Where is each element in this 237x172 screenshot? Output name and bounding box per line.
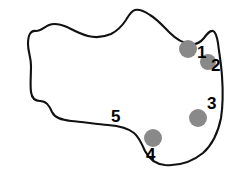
- marker-label-3: 3: [207, 95, 216, 112]
- marker-label-5: 5: [111, 108, 120, 125]
- marker-1[interactable]: [179, 40, 197, 58]
- marker-label-4: 4: [146, 146, 155, 163]
- diagram-canvas: [0, 0, 237, 172]
- marker-label-1: 1: [197, 44, 206, 61]
- marker-label-2: 2: [211, 57, 220, 74]
- marker-3[interactable]: [189, 109, 207, 127]
- annotated-region-diagram: 1 2 3 4 5: [0, 0, 237, 172]
